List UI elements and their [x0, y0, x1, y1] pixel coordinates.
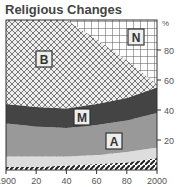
label-M: M	[77, 111, 87, 125]
svg-text:20: 20	[164, 136, 174, 146]
label-N: N	[132, 31, 141, 45]
label-A: A	[110, 135, 119, 149]
svg-text:60: 60	[92, 176, 102, 186]
svg-text:80: 80	[164, 46, 174, 56]
svg-text:20: 20	[31, 176, 41, 186]
svg-text:80: 80	[122, 176, 132, 186]
label-B: B	[40, 53, 49, 67]
svg-text:2000: 2000	[147, 176, 167, 186]
svg-text:40: 40	[61, 176, 71, 186]
svg-text:60: 60	[164, 76, 174, 86]
svg-text:40: 40	[164, 106, 174, 116]
svg-text:1900: 1900	[0, 176, 16, 186]
area-chart: BNMA20406080%1900204060802000	[0, 0, 191, 187]
svg-text:%: %	[162, 19, 169, 28]
